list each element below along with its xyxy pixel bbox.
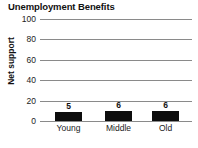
- x-axis-category-label: Old: [144, 124, 187, 133]
- bar[interactable]: [152, 111, 179, 121]
- y-axis-tick-label: 20: [27, 96, 36, 105]
- y-axis-tick-label: 80: [27, 35, 36, 44]
- bar[interactable]: [55, 112, 82, 121]
- bar[interactable]: [105, 111, 132, 121]
- chart-title: Unemployment Benefits: [8, 1, 115, 13]
- bar-value-label: 6: [105, 101, 132, 110]
- x-axis-category-label: Middle: [97, 124, 140, 133]
- plot-area: 0204060801005Young6Middle6Old: [40, 19, 192, 122]
- bar-chart: Unemployment Benefits Net support 020406…: [0, 0, 198, 148]
- y-axis-title: Net support: [6, 29, 16, 93]
- bar-value-label: 5: [55, 102, 82, 111]
- bar-group: 6Old: [152, 19, 179, 122]
- y-axis-tick-label: 100: [22, 15, 36, 24]
- y-axis-tick-label: 0: [31, 117, 36, 126]
- y-axis-tick-label: 60: [27, 56, 36, 65]
- x-axis-category-label: Young: [47, 124, 90, 133]
- bar-value-label: 6: [152, 101, 179, 110]
- bar-group: 5Young: [55, 19, 82, 122]
- bar-group: 6Middle: [105, 19, 132, 122]
- y-axis-tick-label: 40: [27, 76, 36, 85]
